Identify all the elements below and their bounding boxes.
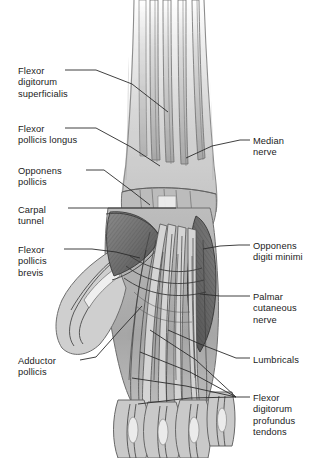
label-line: Median (253, 136, 284, 147)
label-line: brevis (18, 268, 47, 279)
label-line: tendons (253, 427, 295, 438)
label-line: Flexor (253, 393, 295, 404)
label-line: pollicis (18, 367, 56, 378)
label-carpal-tunnel: Carpaltunnel (18, 205, 46, 228)
label-line: pollicis (18, 256, 47, 267)
label-line: Opponens (253, 241, 303, 252)
label-line: digitorum (253, 404, 295, 415)
label-lumbricals: Lumbricals (253, 355, 299, 366)
label-line: Flexor (18, 245, 47, 256)
label-line: Palmar (253, 292, 297, 303)
label-line: cutaneous (253, 303, 297, 314)
label-flexor-pollicis-longus: Flexorpollicis longus (18, 124, 77, 147)
label-line: nerve (253, 147, 284, 158)
label-line: digiti minimi (253, 252, 303, 263)
label-flexor-digitorum-profundus-tendons: Flexordigitorumprofundustendons (253, 393, 295, 439)
label-line: Flexor (18, 66, 68, 77)
label-line: digitorum (18, 77, 68, 88)
label-line: Opponens (18, 166, 62, 177)
label-line: superficialis (18, 89, 68, 100)
label-line: pollicis (18, 177, 62, 188)
label-line: nerve (253, 315, 297, 326)
label-line: pollicis longus (18, 135, 77, 146)
label-line: Adductor (18, 356, 56, 367)
label-opponens-pollicis: Opponenspollicis (18, 166, 62, 189)
label-line: tunnel (18, 216, 46, 227)
label-opponens-digiti-minimi: Opponensdigiti minimi (253, 241, 303, 264)
label-flexor-digitorum-superficialis: Flexordigitorumsuperficialis (18, 66, 68, 100)
label-line: Lumbricals (253, 355, 299, 366)
digits-region (114, 392, 236, 458)
label-line: Carpal (18, 205, 46, 216)
label-median-nerve: Mediannerve (253, 136, 284, 159)
label-flexor-pollicis-brevis: Flexorpollicisbrevis (18, 245, 47, 279)
anatomy-figure: FlexordigitorumsuperficialisFlexorpollic… (0, 0, 322, 458)
label-adductor-pollicis: Adductorpollicis (18, 356, 56, 379)
label-line: Flexor (18, 124, 77, 135)
label-palmar-cutaneous-nerve: Palmarcutaneousnerve (253, 292, 297, 326)
label-line: profundus (253, 416, 295, 427)
